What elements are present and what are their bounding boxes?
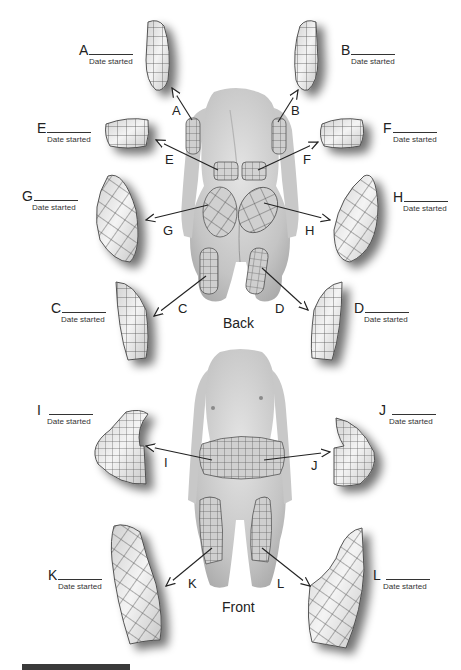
site-d-date-field[interactable]: D Date started <box>354 301 409 315</box>
date-blank-line <box>393 132 437 133</box>
injection-site-rotation-diagram: A Date started B Date started E Date sta… <box>0 0 461 670</box>
date-blank-line <box>351 54 395 55</box>
site-b-letter: B <box>341 43 350 57</box>
arrow-label-i: I <box>164 456 168 469</box>
site-d-letter: D <box>354 301 364 315</box>
date-started-caption: Date started <box>383 582 427 591</box>
site-h-letter: H <box>393 190 403 204</box>
site-k-date-field[interactable]: K Date started <box>48 568 102 582</box>
site-i-date-field[interactable]: I Date started <box>37 403 93 417</box>
site-b-date-field[interactable]: B Date started <box>341 43 395 57</box>
site-k-letter: K <box>48 568 57 582</box>
date-started-caption: Date started <box>364 315 408 324</box>
date-started-caption: Date started <box>47 135 91 144</box>
date-started-caption: Date started <box>32 203 76 212</box>
front-view-label: Front <box>222 600 255 614</box>
date-blank-line <box>47 132 91 133</box>
site-g-date-field[interactable]: G Date started <box>22 189 78 203</box>
site-j-date-field[interactable]: J Date started <box>379 403 436 417</box>
site-f-date-field[interactable]: F Date started <box>383 121 437 135</box>
date-blank-line <box>404 201 448 202</box>
site-f-letter: F <box>383 121 392 135</box>
site-c-date-field[interactable]: C Date started <box>51 301 106 315</box>
site-e-date-field[interactable]: E Date started <box>37 121 91 135</box>
arrow-label-d: D <box>275 302 284 315</box>
back-body-figure <box>181 88 298 302</box>
site-j-letter: J <box>379 403 386 417</box>
date-started-caption: Date started <box>89 57 133 66</box>
site-a-date-field[interactable]: A Date started <box>79 43 133 57</box>
site-h-date-field[interactable]: H Date started <box>393 190 448 204</box>
date-blank-line <box>62 312 106 313</box>
site-l-date-field[interactable]: L Date started <box>373 568 430 582</box>
date-started-caption: Date started <box>351 57 395 66</box>
arrow-label-k: K <box>188 577 197 590</box>
arrow-label-e: E <box>165 153 174 166</box>
arrow-label-a: A <box>172 104 181 117</box>
date-started-caption: Date started <box>61 315 105 324</box>
date-started-caption: Date started <box>393 135 437 144</box>
site-l-letter: L <box>373 568 381 582</box>
arrow-label-f: F <box>303 153 311 166</box>
arrow-label-g: G <box>163 224 173 237</box>
site-e-letter: E <box>37 121 46 135</box>
site-c-letter: C <box>51 301 61 315</box>
date-started-caption: Date started <box>389 417 433 426</box>
front-body-figure <box>188 349 292 588</box>
arrow-label-h: H <box>305 224 314 237</box>
site-g-letter: G <box>22 189 33 203</box>
date-started-caption: Date started <box>403 204 447 213</box>
date-blank-line <box>89 54 133 55</box>
date-blank-line <box>49 414 93 415</box>
date-started-caption: Date started <box>58 582 102 591</box>
date-blank-line <box>365 312 409 313</box>
back-view-label: Back <box>223 316 254 330</box>
footer-bar <box>22 664 130 670</box>
date-started-caption: Date started <box>47 417 91 426</box>
site-a-letter: A <box>79 43 88 57</box>
date-blank-line <box>386 579 430 580</box>
arrow-label-c: C <box>178 302 187 315</box>
arrow-label-j: J <box>311 459 318 472</box>
arrow-label-b: B <box>291 104 300 117</box>
arrow-label-l: L <box>277 577 284 590</box>
date-blank-line <box>58 579 102 580</box>
date-blank-line <box>34 200 78 201</box>
site-i-letter: I <box>37 403 41 417</box>
date-blank-line <box>392 414 436 415</box>
